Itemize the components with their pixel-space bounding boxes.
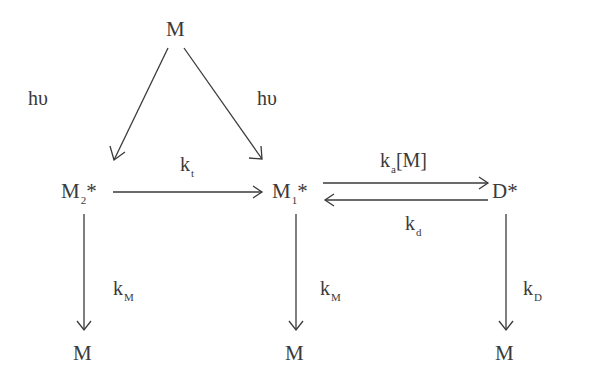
rate-base: k [113, 277, 123, 299]
rate-label-km-mid: kM [320, 278, 341, 298]
rate-base: k [405, 212, 415, 234]
arrow-m1star-to-m [289, 214, 303, 330]
arrow-m2star-to-m [77, 214, 91, 330]
rate-label-kd: kd [405, 213, 422, 233]
node-suffix: * [297, 179, 308, 203]
rate-label-km-left: kM [113, 278, 134, 298]
ground-state-right: M [495, 343, 514, 364]
hv-label-right: hυ [257, 88, 277, 108]
rate-base: k [180, 153, 190, 175]
ground-state-top: M [166, 19, 185, 40]
rate-subscript: M [331, 291, 341, 303]
rate-subscript: D [534, 291, 542, 303]
rate-label-ka: ka[M] [380, 150, 427, 170]
rate-base: k [320, 277, 330, 299]
node-base: M [61, 179, 80, 203]
arrow-m-to-m2star [110, 48, 168, 160]
kinetic-scheme-diagram: M M2* M1* D* M M M hυ hυ kt ka[M] kd kM … [0, 0, 589, 386]
arrow-m1star-to-dstar [323, 177, 488, 189]
rate-subscript: M [124, 291, 134, 303]
node-suffix: * [86, 179, 97, 203]
arrow-m2star-to-m1star [113, 186, 262, 198]
photon-energy-text: hυ [257, 87, 277, 109]
excited-state-m1: M1* [272, 181, 308, 202]
excimer-state-d: D* [492, 181, 518, 202]
node-base: D [492, 179, 507, 203]
rate-label-kt: kt [180, 154, 194, 174]
excited-state-m2: M2* [61, 181, 97, 202]
ground-state-label: M [285, 341, 304, 365]
photon-energy-text: hυ [28, 87, 48, 109]
ground-state-label: M [166, 17, 185, 41]
rate-suffix: [M] [396, 149, 427, 171]
node-subscript: 1 [292, 194, 298, 206]
ground-state-mid: M [285, 343, 304, 364]
hv-label-left: hυ [28, 88, 48, 108]
rate-base: k [523, 277, 533, 299]
ground-state-label: M [73, 341, 92, 365]
ground-state-label: M [495, 341, 514, 365]
node-suffix: * [507, 179, 518, 203]
rate-subscript: t [191, 167, 194, 179]
rate-base: k [380, 149, 390, 171]
rate-label-kd-decay: kD [523, 278, 542, 298]
arrow-dstar-to-m [499, 214, 513, 330]
arrow-m-to-m1star [184, 48, 262, 159]
node-base: M [272, 179, 291, 203]
arrow-dstar-to-m1star [325, 194, 488, 206]
node-subscript: 2 [81, 194, 87, 206]
ground-state-left: M [73, 343, 92, 364]
rate-subscript: a [391, 163, 396, 175]
rate-subscript: d [416, 226, 422, 238]
